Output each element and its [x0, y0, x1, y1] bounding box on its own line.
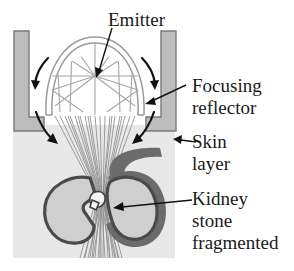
diagram-canvas: Emitter Focusing reflector Skin layer Ki… [0, 0, 294, 271]
label-focusing-reflector-line2: reflector [192, 97, 257, 118]
lithotripsy-figure: Emitter Focusing reflector Skin layer Ki… [0, 0, 294, 271]
label-emitter: Emitter [108, 9, 166, 30]
label-skin-line2: layer [192, 153, 231, 174]
label-focusing-reflector-line1: Focusing [192, 75, 262, 96]
label-skin-line1: Skin [192, 131, 227, 152]
label-kidney-line1: Kidney [192, 188, 248, 209]
label-kidney-line2: stone [192, 210, 232, 231]
label-kidney-line3: fragmented [192, 232, 279, 253]
